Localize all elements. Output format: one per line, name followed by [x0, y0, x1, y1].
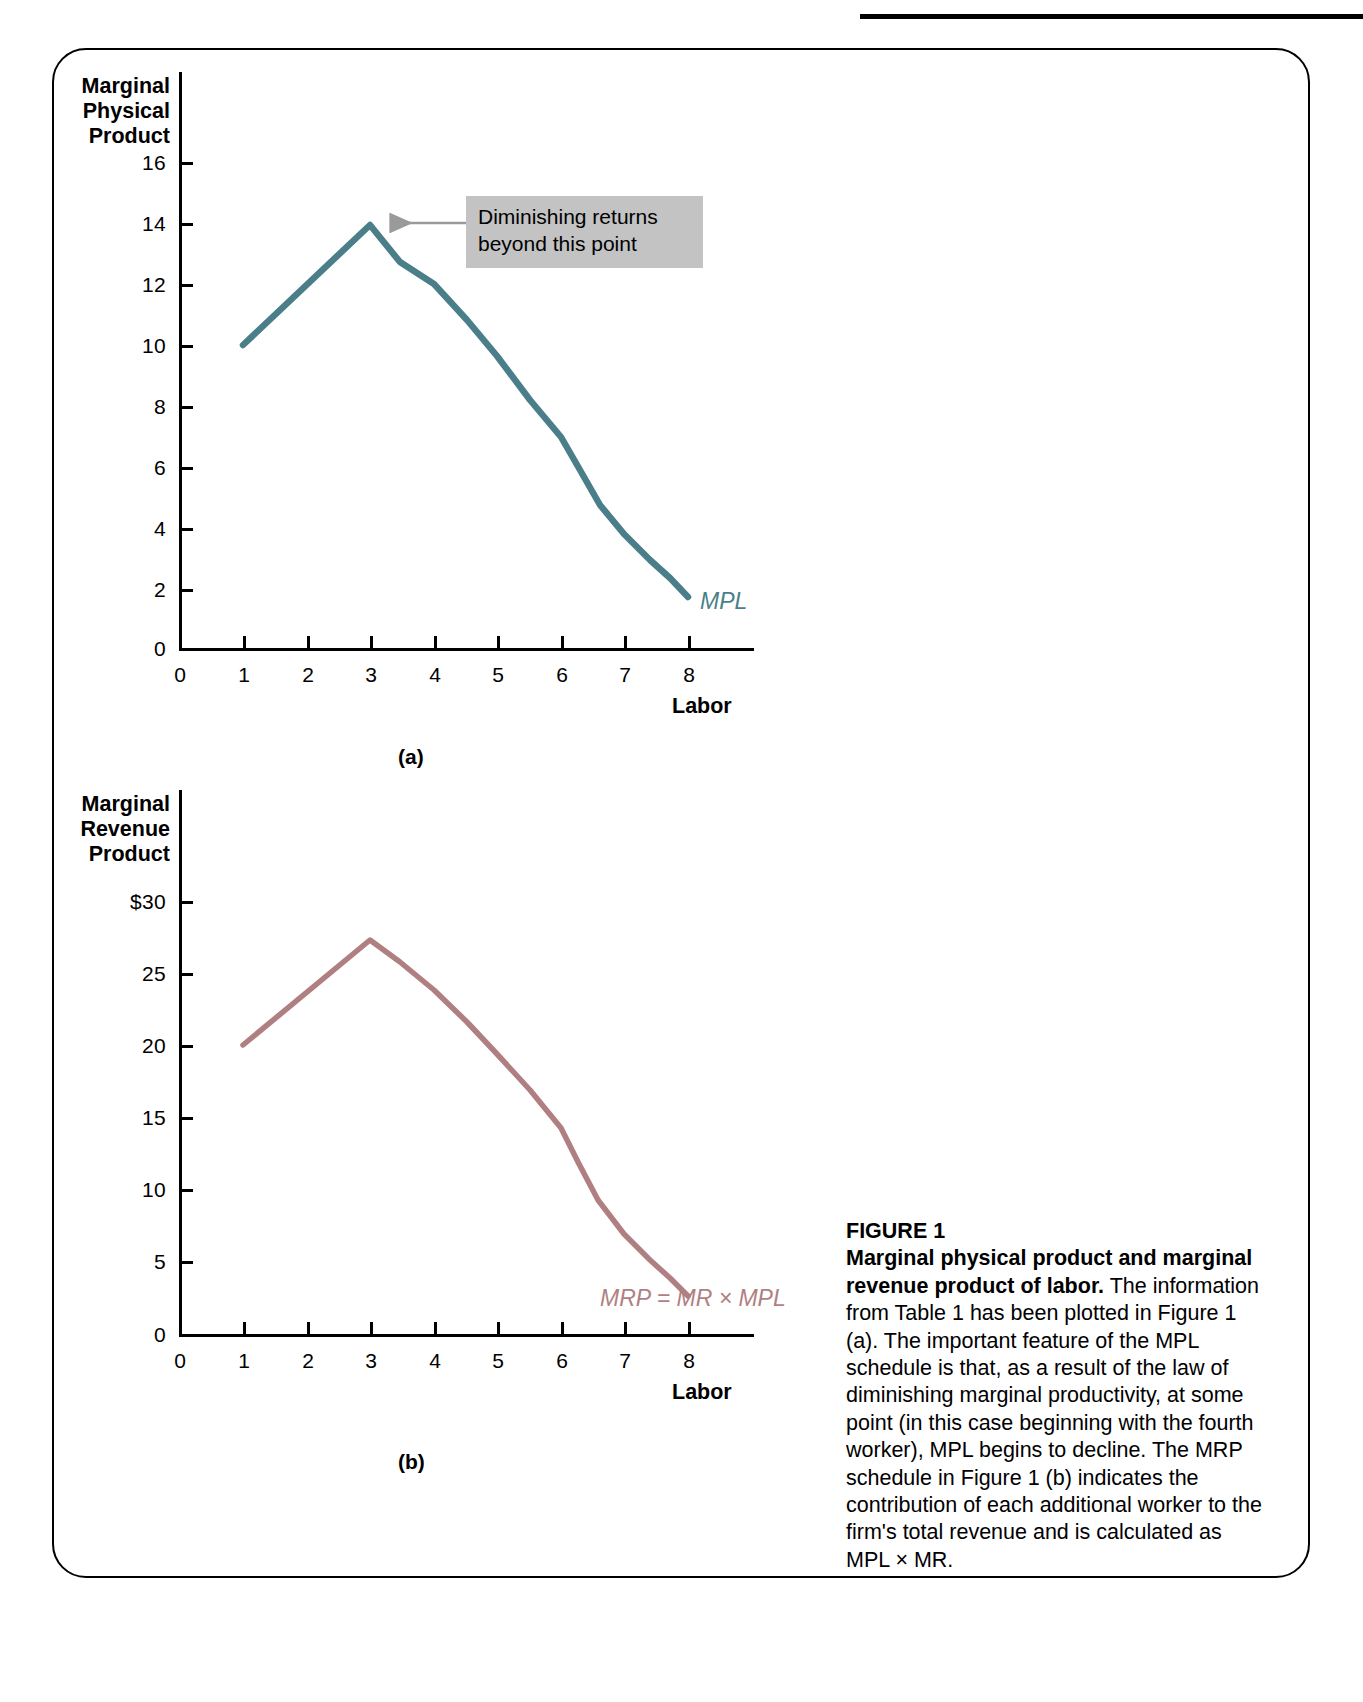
panel-b-y-axis-title: Marginal Revenue Product	[60, 792, 170, 867]
panel-a-ylabel-0: 0	[118, 637, 166, 661]
panel-a-xlabel-2: 2	[293, 663, 323, 687]
panel-b-ylabel-20: 20	[100, 1034, 166, 1058]
panel-a-y-axis-title: Marginal Physical Product	[60, 74, 170, 149]
panel-a-xlabel-4: 4	[420, 663, 450, 687]
panel-b-xlabel-6: 6	[547, 1349, 577, 1373]
y-title-b-line-2: Revenue	[80, 817, 170, 841]
panel-a-xtick-7	[624, 636, 627, 649]
panel-a-ylabel-14: 14	[118, 212, 166, 236]
y-title-line-1: Marginal	[82, 74, 170, 98]
panel-b-y-axis	[179, 790, 182, 1336]
mpl-curve	[243, 225, 688, 597]
panel-a-ytick-4	[180, 528, 193, 531]
panel-a-ylabel-4: 4	[118, 517, 166, 541]
panel-a-ylabel-10: 10	[118, 334, 166, 358]
panel-b-ylabel-30: $30	[100, 890, 166, 914]
y-title-line-3: Product	[89, 124, 170, 148]
mrp-curve	[243, 940, 688, 1296]
panel-a-xtick-2	[307, 636, 310, 649]
panel-b-ylabel-10: 10	[100, 1178, 166, 1202]
panel-a-ytick-16	[180, 162, 193, 165]
chart-panel-b: Marginal Revenue Product $30 25 20 15 10…	[0, 790, 820, 1490]
y-title-line-2: Physical	[83, 99, 170, 123]
panel-a-xlabel-3: 3	[356, 663, 386, 687]
panel-a-xlabel-0: 0	[165, 663, 195, 687]
panel-a-ytick-12	[180, 284, 193, 287]
panel-a-ytick-10	[180, 345, 193, 348]
panel-a-x-axis-title: Labor	[672, 694, 732, 719]
callout-line-2: beyond this point	[478, 232, 637, 255]
panel-b-xtick-6	[561, 1322, 564, 1335]
panel-a-xtick-3	[370, 636, 373, 649]
panel-b-x-axis-title: Labor	[672, 1380, 732, 1405]
panel-b-xtick-8	[688, 1322, 691, 1335]
page-top-rule	[860, 14, 1363, 19]
panel-a-xlabel-7: 7	[610, 663, 640, 687]
panel-a-ytick-2	[180, 589, 193, 592]
callout-text: Diminishing returns beyond this point	[478, 203, 703, 257]
y-title-b-line-3: Product	[89, 842, 170, 866]
panel-a-ytick-8	[180, 406, 193, 409]
figure-number: FIGURE 1	[846, 1218, 1268, 1245]
panel-a-curve-label: MPL	[700, 588, 747, 615]
panel-b-xlabel-1: 1	[229, 1349, 259, 1373]
panel-b-ytick-5	[180, 1261, 193, 1264]
panel-a-xlabel-5: 5	[483, 663, 513, 687]
panel-a-xtick-1	[243, 636, 246, 649]
panel-b-xlabel-4: 4	[420, 1349, 450, 1373]
y-title-b-line-1: Marginal	[82, 792, 170, 816]
panel-b-xtick-3	[370, 1322, 373, 1335]
panel-b-ylabel-25: 25	[100, 962, 166, 986]
panel-b-ylabel-5: 5	[100, 1250, 166, 1274]
panel-b-xtick-1	[243, 1322, 246, 1335]
panel-b-xlabel-7: 7	[610, 1349, 640, 1373]
panel-a-ylabel-16: 16	[118, 151, 166, 175]
panel-b-xtick-7	[624, 1322, 627, 1335]
panel-a-xtick-4	[434, 636, 437, 649]
panel-a-ylabel-6: 6	[118, 456, 166, 480]
panel-a-ylabel-8: 8	[118, 395, 166, 419]
panel-b-xtick-5	[497, 1322, 500, 1335]
panel-b-ytick-10	[180, 1189, 193, 1192]
panel-a-label: (a)	[398, 745, 424, 769]
figure-caption: FIGURE 1Marginal physical product and ma…	[846, 1218, 1268, 1574]
panel-a-ytick-6	[180, 467, 193, 470]
panel-a-ylabel-2: 2	[118, 578, 166, 602]
panel-a-xtick-6	[561, 636, 564, 649]
panel-b-ylabel-0: 0	[100, 1323, 166, 1347]
panel-b-ylabel-15: 15	[100, 1106, 166, 1130]
panel-a-xlabel-8: 8	[674, 663, 704, 687]
panel-a-x-axis	[179, 648, 754, 651]
panel-b-ytick-30	[180, 901, 193, 904]
callout-line-1: Diminishing returns	[478, 205, 658, 228]
panel-a-xlabel-1: 1	[229, 663, 259, 687]
panel-b-ytick-25	[180, 973, 193, 976]
panel-b-xlabel-0: 0	[165, 1349, 195, 1373]
panel-b-xlabel-8: 8	[674, 1349, 704, 1373]
panel-b-xtick-2	[307, 1322, 310, 1335]
panel-a-y-axis	[179, 72, 182, 650]
chart-panel-a: Marginal Physical Product 16 14 12 10 8 …	[0, 0, 820, 760]
panel-a-xtick-8	[688, 636, 691, 649]
panel-a-xtick-5	[497, 636, 500, 649]
figure-body: The information from Table 1 has been pl…	[846, 1274, 1262, 1572]
panel-b-x-axis	[179, 1334, 754, 1337]
panel-a-xlabel-6: 6	[547, 663, 577, 687]
panel-b-xtick-4	[434, 1322, 437, 1335]
panel-a-ylabel-12: 12	[118, 273, 166, 297]
panel-b-label: (b)	[398, 1450, 425, 1474]
panel-b-ytick-20	[180, 1045, 193, 1048]
panel-b-ytick-15	[180, 1117, 193, 1120]
panel-b-curve-label: MRP = MR × MPL	[600, 1285, 786, 1312]
panel-a-ytick-14	[180, 223, 193, 226]
panel-b-xlabel-2: 2	[293, 1349, 323, 1373]
panel-b-xlabel-3: 3	[356, 1349, 386, 1373]
panel-b-xlabel-5: 5	[483, 1349, 513, 1373]
